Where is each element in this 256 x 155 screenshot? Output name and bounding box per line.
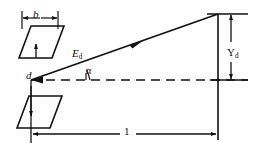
- label-b: b: [33, 9, 39, 20]
- label-Y-d-subscript: d: [235, 52, 239, 60]
- right-dimension-group: [207, 14, 248, 140]
- label-alpha: α: [86, 66, 91, 76]
- lower-parallelogram: [17, 96, 62, 128]
- label-E-d-base: E: [72, 47, 79, 59]
- axis-group: [31, 77, 248, 144]
- ray-group: [31, 14, 218, 80]
- figure-canvas: b Ed α d Yd 1: [0, 0, 256, 155]
- lower-aperture-group: [17, 96, 62, 128]
- label-E-d-subscript: d: [79, 53, 83, 61]
- upper-parallelogram: [19, 26, 64, 58]
- label-E-d: Ed: [72, 48, 82, 61]
- upper-aperture-group: [19, 11, 64, 58]
- label-length-1: 1: [124, 126, 130, 137]
- label-d: d: [26, 70, 32, 81]
- label-Y-d: Yd: [227, 47, 239, 60]
- inclined-ray: [31, 14, 218, 80]
- label-Y-d-base: Y: [227, 46, 235, 58]
